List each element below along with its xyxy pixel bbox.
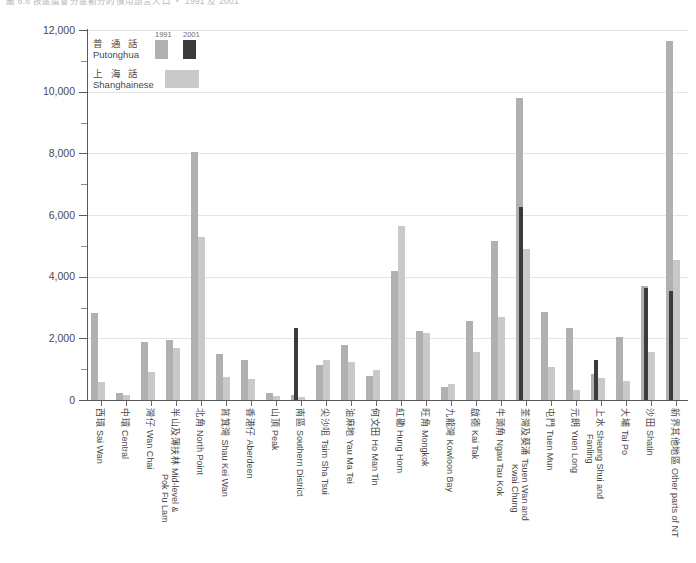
bar-putonghua-2001 bbox=[669, 291, 673, 401]
y-tick-major bbox=[79, 277, 87, 278]
x-label-en: Hung Hom bbox=[395, 430, 405, 473]
x-axis-category-label: 元朗 Yuen Long bbox=[570, 408, 580, 473]
gridline bbox=[88, 338, 688, 339]
x-label-zh: 牛頭角 bbox=[495, 408, 505, 440]
bar-shanghainese-1991 bbox=[298, 397, 305, 400]
legend-label-shanghainese-en: Shanghainese bbox=[93, 79, 154, 90]
x-axis-category-label: 牛頭角 Ngau Tau Kok bbox=[495, 408, 505, 496]
bar-shanghainese-1991 bbox=[598, 378, 605, 400]
x-label-en: Sai Wan bbox=[95, 430, 105, 464]
bar-shanghainese-1991 bbox=[548, 367, 555, 400]
bar-shanghainese-1991 bbox=[173, 348, 180, 400]
gridline bbox=[88, 277, 688, 278]
x-label-zh: 沙田 bbox=[645, 408, 655, 430]
x-tick bbox=[426, 401, 427, 406]
x-label-zh: 荃灣及葵涌 bbox=[520, 408, 530, 459]
y-axis-tick-label: 10,000 bbox=[15, 86, 75, 97]
x-label-zh: 山頂 bbox=[270, 408, 280, 430]
x-label-en: Wan Chai bbox=[145, 430, 155, 469]
x-label-en: Other parts of NT bbox=[670, 468, 680, 538]
x-axis-category-label: 香港仔 Aberdeen bbox=[245, 408, 255, 479]
legend-year-2001: 2001 bbox=[183, 30, 200, 39]
bar-putonghua-1991 bbox=[316, 365, 323, 401]
bar-shanghainese-1991 bbox=[523, 249, 530, 400]
y-tick-major bbox=[79, 30, 87, 31]
x-axis-category-label: 上水 Sheung Shui andFanling bbox=[595, 408, 605, 499]
x-tick bbox=[326, 401, 327, 406]
x-tick bbox=[151, 401, 152, 406]
y-tick-major bbox=[79, 338, 87, 339]
bar-putonghua-1991 bbox=[391, 271, 398, 401]
x-label-zh: 香港仔 bbox=[245, 408, 255, 440]
bar-putonghua-1991 bbox=[341, 345, 348, 400]
x-axis-category-label: 旺角 Mongkok bbox=[420, 408, 430, 467]
gridline bbox=[88, 215, 688, 216]
x-label-zh: 旺角 bbox=[420, 408, 430, 430]
x-axis-category-label: 半山及薄扶林 Mid-level &Pok Fu Lam bbox=[170, 408, 180, 513]
y-tick-major bbox=[79, 400, 87, 401]
x-label-en: Yau Ma Tei bbox=[345, 440, 355, 484]
x-axis-category-label: 南區 Southern District bbox=[295, 408, 305, 497]
x-tick bbox=[126, 401, 127, 406]
x-label-en: Tuen Mun bbox=[545, 430, 555, 470]
bar-putonghua-1991 bbox=[191, 152, 198, 400]
x-tick bbox=[301, 401, 302, 406]
x-label-en: Tsuen Wan and bbox=[520, 459, 530, 521]
bar-putonghua-1991 bbox=[141, 342, 148, 400]
y-tick-minor bbox=[81, 184, 87, 185]
x-axis-category-labels: 西環 Sai Wan中環 Central灣仔 Wan Chai半山及薄扶林 Mi… bbox=[0, 408, 696, 563]
x-label-en-line2: Pok Fu Lam bbox=[160, 474, 170, 523]
bar-shanghainese-1991 bbox=[323, 360, 330, 400]
bar-shanghainese-1991 bbox=[498, 317, 505, 400]
x-axis-category-label: 荃灣及葵涌 Tsuen Wan andKwai Chung bbox=[520, 408, 530, 521]
x-tick bbox=[351, 401, 352, 406]
y-axis-tick-label: 8,000 bbox=[15, 148, 75, 159]
bar-putonghua-1991 bbox=[416, 331, 423, 400]
x-axis-category-label: 啟德 Kai Tak bbox=[470, 408, 480, 459]
y-tick-minor bbox=[81, 369, 87, 370]
bar-shanghainese-1991 bbox=[573, 390, 580, 400]
bar-shanghainese-1991 bbox=[198, 237, 205, 400]
x-tick bbox=[251, 401, 252, 406]
x-axis-category-label: 尖沙咀 Tsim Sha Tsui bbox=[320, 408, 330, 495]
x-axis-category-label: 新界其他地區 Other parts of NT bbox=[670, 408, 680, 538]
x-label-zh: 灣仔 bbox=[145, 408, 155, 430]
x-label-zh: 九龍灣 bbox=[445, 408, 455, 440]
x-label-en-line2: Fanling bbox=[585, 434, 595, 464]
bar-putonghua-1991 bbox=[166, 340, 173, 400]
x-tick bbox=[226, 401, 227, 406]
bar-shanghainese-1991 bbox=[123, 395, 130, 400]
legend-label-shanghainese-zh: 上 海 話 bbox=[93, 68, 154, 79]
bar-putonghua-1991 bbox=[91, 313, 98, 400]
x-label-zh: 何文田 bbox=[370, 408, 380, 440]
bar-shanghainese-1991 bbox=[673, 260, 680, 400]
legend-label-putonghua: 普 通 話 Putonghua bbox=[93, 38, 141, 60]
x-label-zh: 啟德 bbox=[470, 408, 480, 430]
x-tick bbox=[551, 401, 552, 406]
x-axis-category-label: 何文田 Ho Man Tin bbox=[370, 408, 380, 486]
x-label-en: Mid-level & bbox=[170, 468, 180, 513]
x-label-en: Ho Man Tin bbox=[370, 440, 380, 486]
x-tick bbox=[451, 401, 452, 406]
y-tick-major bbox=[79, 153, 87, 154]
bar-shanghainese-1991 bbox=[248, 379, 255, 400]
bar-shanghainese-1991 bbox=[148, 372, 155, 400]
x-label-zh: 尖沙咀 bbox=[320, 408, 330, 440]
bar-shanghainese-1991 bbox=[423, 333, 430, 400]
x-label-zh: 新界其他地區 bbox=[670, 408, 680, 468]
legend-label-shanghainese: 上 海 話 Shanghainese bbox=[93, 68, 154, 90]
bar-putonghua-2001 bbox=[644, 288, 648, 401]
bar-putonghua-1991 bbox=[241, 360, 248, 400]
x-axis-category-label: 中環 Central bbox=[120, 408, 130, 459]
legend-swatch-putonghua-1991 bbox=[155, 40, 168, 59]
bar-putonghua-1991 bbox=[566, 328, 573, 400]
x-label-zh: 大埔 bbox=[620, 408, 630, 430]
x-tick bbox=[651, 401, 652, 406]
bar-putonghua-1991 bbox=[366, 376, 373, 400]
y-axis-tick-label: 2,000 bbox=[15, 333, 75, 344]
x-label-zh: 紅磡 bbox=[395, 408, 405, 430]
y-axis-tick-label: 6,000 bbox=[15, 210, 75, 221]
x-label-en: Peak bbox=[270, 430, 280, 451]
y-axis-tick-label: 4,000 bbox=[15, 271, 75, 282]
bar-putonghua-1991 bbox=[116, 393, 123, 400]
